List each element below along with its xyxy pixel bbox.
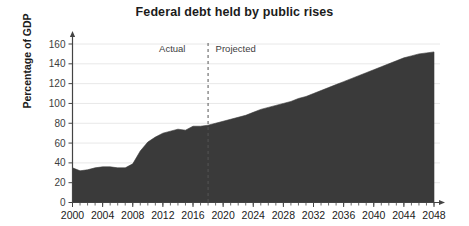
x-tick-label: 2036 bbox=[332, 209, 356, 221]
area-series-federal-debt bbox=[73, 52, 435, 203]
x-tick-label: 2048 bbox=[422, 209, 446, 221]
y-tick-label: 100 bbox=[49, 98, 66, 109]
y-tick-label: 40 bbox=[54, 157, 66, 168]
x-tick-label: 2008 bbox=[121, 209, 145, 221]
x-tick-label: 2044 bbox=[392, 209, 416, 221]
y-tick-label: 0 bbox=[60, 197, 66, 208]
x-tick-label: 2012 bbox=[151, 209, 175, 221]
x-tick-label: 2016 bbox=[181, 209, 205, 221]
y-tick-label: 80 bbox=[54, 118, 66, 129]
x-tick-label: 2000 bbox=[61, 209, 85, 221]
y-tick-label: 60 bbox=[54, 138, 66, 149]
x-tick-label: 2024 bbox=[242, 209, 266, 221]
plot-area: 020406080100120140160 200020042008201220… bbox=[0, 0, 469, 226]
x-tick-group: 2000200420082012201620202024202820322036… bbox=[61, 203, 446, 221]
y-tick-label: 120 bbox=[49, 78, 66, 89]
y-tick-group: 020406080100120140160 bbox=[49, 39, 73, 209]
chart-figure: Federal debt held by public rises Percen… bbox=[0, 0, 469, 226]
x-tick-label: 2020 bbox=[211, 209, 235, 221]
x-tick-label: 2040 bbox=[362, 209, 386, 221]
y-tick-label: 20 bbox=[54, 177, 66, 188]
annotation-group: ActualProjected bbox=[159, 43, 256, 54]
y-tick-label: 140 bbox=[49, 58, 66, 69]
x-tick-label: 2028 bbox=[272, 209, 296, 221]
x-axis-arrow-icon bbox=[439, 200, 445, 205]
area-series-group bbox=[73, 52, 435, 203]
actual-label: Actual bbox=[159, 43, 185, 54]
x-tick-label: 2032 bbox=[302, 209, 326, 221]
y-axis-arrow-icon bbox=[70, 31, 75, 37]
projected-label: Projected bbox=[216, 43, 256, 54]
y-tick-label: 160 bbox=[49, 39, 66, 50]
x-tick-label: 2004 bbox=[91, 209, 115, 221]
